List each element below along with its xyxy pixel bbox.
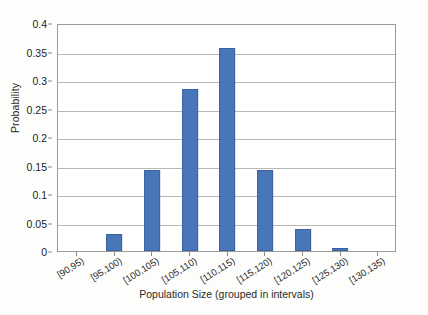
y-tick-mark	[48, 52, 52, 53]
y-tick-label: 0.1	[32, 189, 47, 201]
bar[interactable]	[257, 170, 273, 252]
bars-layer	[58, 25, 395, 251]
y-tick-label: 0.3	[32, 75, 47, 87]
y-tick-mark	[48, 138, 52, 139]
y-tick-label: 0.4	[32, 18, 47, 30]
bar[interactable]	[107, 234, 123, 251]
bar-slot	[171, 25, 209, 251]
x-tick-mark	[340, 252, 341, 256]
bar[interactable]	[144, 170, 160, 252]
y-tick-mark	[48, 252, 52, 253]
y-tick-mark	[48, 109, 52, 110]
x-tick-mark	[189, 252, 190, 256]
bar-slot	[209, 25, 247, 251]
bar-slot	[133, 25, 171, 251]
bar-slot	[322, 25, 360, 251]
x-tick-mark	[114, 252, 115, 256]
y-tick-label: 0.25	[27, 104, 47, 116]
x-tick-mark	[302, 252, 303, 256]
bar[interactable]	[295, 229, 311, 251]
bar-slot	[284, 25, 322, 251]
y-tick-mark	[48, 24, 52, 25]
y-tick-mark	[48, 166, 52, 167]
y-tick-label: 0.15	[27, 161, 47, 173]
bar-slot	[359, 25, 397, 251]
y-tick-label: 0.35	[27, 47, 47, 59]
y-tick-mark	[48, 223, 52, 224]
bar-slot	[96, 25, 134, 251]
bar[interactable]	[333, 248, 349, 251]
x-tick-mark	[227, 252, 228, 256]
y-tick-label: 0	[41, 246, 47, 258]
bar[interactable]	[182, 89, 198, 251]
x-axis-title: Population Size (grouped in intervals)	[57, 288, 396, 300]
y-tick-mark	[48, 195, 52, 196]
probability-bar-chart: Probability 00.050.10.150.20.250.30.350.…	[0, 0, 428, 315]
bar-slot	[58, 25, 96, 251]
y-tick-mark	[48, 81, 52, 82]
x-tick-mark	[76, 252, 77, 256]
plot-area	[57, 24, 396, 252]
y-tick-label: 0.05	[27, 218, 47, 230]
bar-slot	[246, 25, 284, 251]
y-tick-label: 0.2	[32, 132, 47, 144]
y-axis-tick-labels: 00.050.10.150.20.250.30.350.4	[0, 24, 52, 252]
bar[interactable]	[220, 48, 236, 251]
